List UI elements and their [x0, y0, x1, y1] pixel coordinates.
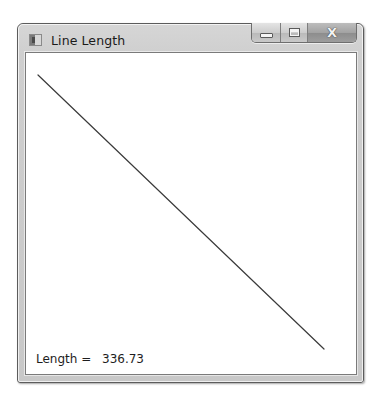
drawing-canvas[interactable]	[26, 53, 356, 374]
caption-buttons: X	[251, 23, 357, 43]
client-area[interactable]: Length = 336.73	[25, 52, 357, 375]
window-app-icon[interactable]	[29, 34, 42, 46]
minimize-button[interactable]	[252, 23, 281, 42]
maximize-icon	[289, 28, 300, 37]
minimize-icon	[260, 33, 273, 38]
close-icon: X	[327, 26, 337, 39]
window-title: Line Length	[51, 33, 125, 48]
maximize-button[interactable]	[281, 23, 308, 42]
length-label: Length =	[36, 352, 91, 366]
close-button[interactable]: X	[308, 23, 356, 42]
length-value: 336.73	[102, 352, 144, 366]
drawn-line[interactable]	[38, 75, 324, 349]
app-window: Line Length X Length = 336.73	[17, 23, 364, 383]
title-bar[interactable]: Line Length X	[18, 24, 363, 52]
